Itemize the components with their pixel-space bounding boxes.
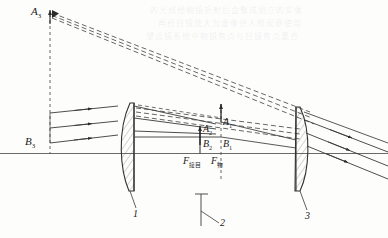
virtual-ray-dashed-5 — [136, 112, 300, 134]
label-focus-objective: F物 — [211, 156, 223, 169]
callout-label-2: 2 — [220, 218, 225, 228]
virtual-ray-dashed-4 — [136, 108, 300, 129]
exit-ray-upper — [304, 112, 388, 143]
callout-label-3: 3 — [305, 211, 310, 221]
callout-label-1: 1 — [133, 209, 138, 219]
label-A1: A1 — [223, 117, 232, 129]
incident-ray-2-arrow — [74, 124, 92, 126]
label-A3: A3 — [31, 6, 41, 20]
exit-ray-2-arrow — [328, 142, 350, 151]
figure-canvas: 的光线经物镜折射后会聚成倒立的实像 再经目镜放大为虚像供人眼观察使用 望远镜系统… — [0, 0, 388, 238]
virtual-ray-dashed-2 — [52, 16, 312, 119]
incident-ray-1-arrow — [74, 109, 92, 111]
virtual-ray-dashed-1 — [52, 13, 310, 112]
callout-3-leader — [300, 191, 307, 210]
callout-2-leader — [201, 211, 219, 223]
label-B3: B3 — [25, 136, 35, 150]
label-focus-eyepiece: F接目 — [183, 156, 201, 169]
virtual-ray-dashed-3 — [52, 18, 314, 124]
label-A2: A2 — [203, 124, 212, 136]
image-to-eyepiece-ray-2 — [221, 137, 296, 148]
exit-ray-1-arrow — [330, 130, 352, 138]
optical-ray-diagram — [0, 0, 388, 238]
exit-ray-3-arrow — [326, 154, 348, 163]
virtual-ray-dashed-6 — [136, 116, 300, 139]
eyepiece-lens — [295, 107, 308, 191]
label-B2: B2 — [203, 139, 212, 151]
incident-ray-3-arrow — [74, 138, 92, 140]
image-to-eyepiece-ray — [221, 122, 296, 140]
objective-lens — [121, 103, 134, 191]
label-B1: B1 — [223, 139, 232, 151]
callout-1-leader — [130, 191, 136, 208]
